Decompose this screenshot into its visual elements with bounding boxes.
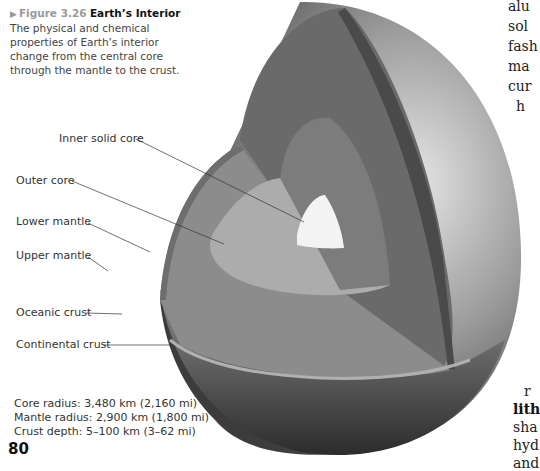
caption-line: change from the central core	[10, 49, 220, 63]
caption-line: The physical and chemical	[10, 21, 220, 35]
label-lower-mantle: Lower mantle	[16, 215, 91, 228]
body-text-fragment: ma	[508, 58, 530, 74]
body-text-fragment: cur	[508, 78, 532, 94]
body-text-fragment: alu	[508, 0, 530, 14]
caption-line: through the mantle to the crust.	[10, 63, 220, 77]
body-text-fragment: sha	[513, 419, 538, 435]
figure-marker-icon: ▶	[10, 9, 17, 19]
figure-caption: ▶Figure 3.26 Earth’s Interior The physic…	[10, 6, 220, 77]
label-upper-mantle: Upper mantle	[16, 249, 91, 262]
body-text-keyword: lith	[513, 401, 540, 417]
label-oceanic-crust: Oceanic crust	[16, 306, 91, 319]
body-text-fragment: fash	[508, 38, 538, 54]
stat-mantle-radius: Mantle radius: 2,900 km (1,800 mi)	[14, 411, 209, 425]
stat-crust-depth: Crust depth: 5–100 km (3–62 mi)	[14, 425, 209, 439]
figure-number: Figure 3.26	[19, 7, 87, 19]
body-text-fragment: h	[516, 98, 525, 114]
figure-title: Earth’s Interior	[90, 7, 181, 19]
body-text-fragment: hyd	[513, 437, 539, 453]
figure-stats: Core radius: 3,480 km (2,160 mi) Mantle …	[14, 397, 209, 439]
label-outer-core: Outer core	[16, 174, 75, 187]
stat-core-radius: Core radius: 3,480 km (2,160 mi)	[14, 397, 209, 411]
caption-line: properties of Earth’s interior	[10, 35, 220, 49]
label-inner-solid-core: Inner solid core	[59, 132, 144, 145]
page-number: 80	[8, 440, 29, 458]
body-text-fragment: sol	[508, 18, 528, 34]
body-text-fragment: and	[513, 455, 539, 471]
label-continental-crust: Continental crust	[16, 338, 111, 351]
body-text-fragment: r	[524, 383, 531, 399]
